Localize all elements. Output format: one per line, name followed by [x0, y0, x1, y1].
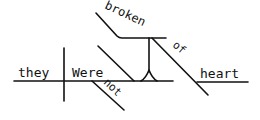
word-verb: Were: [72, 65, 103, 80]
word-object: heart: [200, 66, 239, 81]
sentence-diagram: they Were not broken of heart: [0, 0, 260, 120]
word-adverb: not: [101, 76, 124, 99]
word-subject: they: [18, 65, 49, 80]
word-complement: broken: [103, 0, 148, 29]
diagram-words: they Were not broken of heart: [0, 0, 260, 120]
word-preposition: of: [170, 38, 189, 56]
